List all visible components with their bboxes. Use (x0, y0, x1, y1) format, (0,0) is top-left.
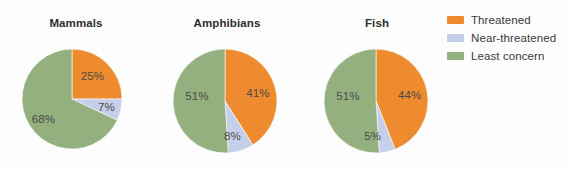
legend-swatch-icon (447, 16, 464, 24)
legend-item-near-threatened: Near-threatened (447, 31, 556, 44)
pie-slice-label-near-threatened: 8% (224, 130, 241, 142)
pie-slice-label-least-concern: 68% (32, 113, 55, 125)
legend-swatch-icon (447, 52, 464, 60)
legend-item-threatened: Threatened (447, 13, 556, 26)
panel-title: Amphibians (152, 17, 302, 29)
pie-mammals (20, 47, 124, 151)
pie-slice-label-threatened: 44% (398, 89, 421, 101)
legend-label: Near-threatened (471, 32, 556, 44)
pie-slice-label-threatened: 41% (246, 87, 269, 99)
panel-title: Mammals (0, 17, 152, 29)
legend-item-least-concern: Least concern (447, 49, 556, 62)
legend-label: Threatened (471, 14, 531, 26)
pie-slice-label-near-threatened: 5% (364, 130, 381, 142)
pie-slice-label-threatened: 25% (81, 70, 104, 82)
legend-swatch-icon (447, 34, 464, 42)
legend-label: Least concern (471, 50, 545, 62)
pie-slice-label-near-threatened: 7% (98, 101, 115, 113)
panel-title: Fish (302, 17, 452, 29)
pie-slice-label-least-concern: 51% (336, 90, 359, 102)
pie-slice-label-least-concern: 51% (185, 90, 208, 102)
chart-legend: ThreatenedNear-threatenedLeast concern (447, 13, 556, 62)
